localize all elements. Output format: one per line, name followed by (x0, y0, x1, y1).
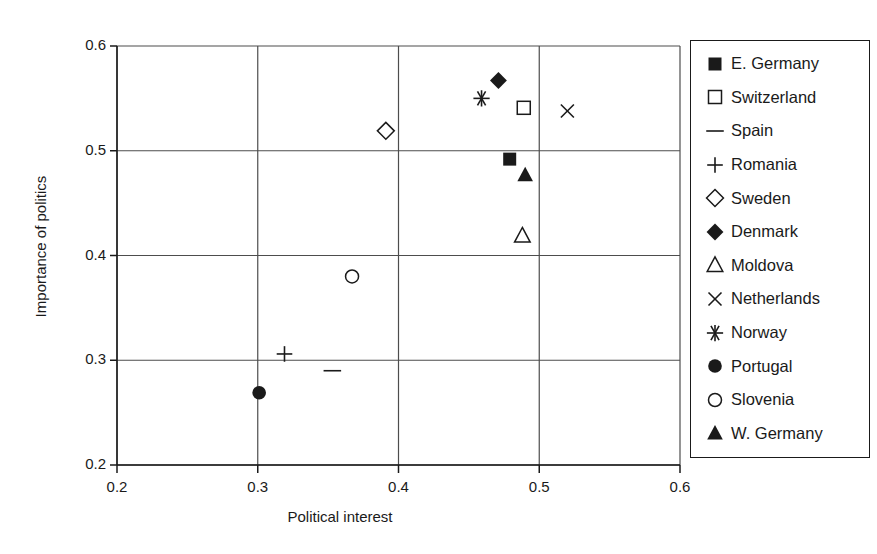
data-points (252, 72, 574, 399)
y-tick-label: 0.6 (58, 36, 106, 53)
legend-item-label: Portugal (731, 357, 792, 376)
filled-triangle-icon (702, 420, 728, 446)
open-square-glyph (709, 91, 722, 104)
cross-icon (702, 286, 728, 312)
y-tick-label: 0.4 (58, 246, 106, 263)
legend-item-label: Slovenia (731, 390, 794, 409)
legend-item-label: Moldova (731, 256, 793, 275)
filled-diamond-icon (702, 219, 728, 245)
data-point-moldova (515, 227, 531, 242)
filled-circle-icon (702, 353, 728, 379)
x-tick-label: 0.2 (87, 478, 147, 495)
x-axis-label: Political interest (0, 508, 680, 525)
dash-icon (702, 118, 728, 144)
data-point-norway (473, 90, 489, 106)
y-tick-label: 0.5 (58, 141, 106, 158)
filled-diamond-glyph (707, 223, 724, 240)
data-point-denmark (490, 72, 507, 89)
data-point-sweden (377, 122, 394, 139)
legend-item-switzerland[interactable]: Switzerland (691, 81, 869, 115)
x-tick-label: 0.4 (369, 478, 429, 495)
y-tick-label: 0.2 (58, 455, 106, 472)
legend-item-label: W. Germany (731, 424, 823, 443)
gridlines (117, 46, 680, 465)
legend-item-e-germany[interactable]: E. Germany (691, 47, 869, 81)
open-diamond-icon (702, 185, 728, 211)
legend-item-w-germany[interactable]: W. Germany (691, 417, 869, 451)
filled-circle-glyph (708, 359, 722, 373)
legend-item-label: Netherlands (731, 289, 820, 308)
legend-item-sweden[interactable]: Sweden (691, 181, 869, 215)
legend-item-label: Switzerland (731, 88, 816, 107)
y-axis-label: Importance of politics (32, 97, 49, 397)
open-square-icon (702, 84, 728, 110)
open-circle-icon (702, 387, 728, 413)
cross-glyph (709, 292, 722, 305)
legend-item-netherlands[interactable]: Netherlands (691, 282, 869, 316)
x-tick-label: 0.3 (228, 478, 288, 495)
data-point-switzerland (517, 101, 530, 114)
legend-item-label: Denmark (731, 222, 798, 241)
axis-ticks (110, 46, 680, 473)
legend-item-denmark[interactable]: Denmark (691, 215, 869, 249)
y-tick-label: 0.3 (58, 350, 106, 367)
legend-item-label: E. Germany (731, 54, 819, 73)
data-point-portugal (252, 386, 266, 400)
legend-box: E. GermanySwitzerlandSpainRomaniaSwedenD… (690, 40, 870, 458)
legend-item-spain[interactable]: Spain (691, 114, 869, 148)
plus-icon (702, 152, 728, 178)
open-diamond-glyph (707, 190, 724, 207)
legend-item-label: Spain (731, 121, 773, 140)
legend-item-romania[interactable]: Romania (691, 148, 869, 182)
open-triangle-icon (702, 252, 728, 278)
legend-item-label: Sweden (731, 189, 791, 208)
plus-glyph (707, 157, 723, 173)
legend-item-portugal[interactable]: Portugal (691, 349, 869, 383)
legend-item-label: Norway (731, 323, 787, 342)
asterisk-glyph (707, 324, 723, 340)
filled-square-icon (702, 51, 728, 77)
open-triangle-glyph (707, 257, 723, 272)
asterisk-icon (702, 320, 728, 346)
open-circle-glyph (709, 393, 722, 406)
legend-item-norway[interactable]: Norway (691, 316, 869, 350)
data-point-netherlands (561, 104, 574, 117)
x-tick-label: 0.5 (509, 478, 569, 495)
data-point-w-germany (517, 167, 533, 182)
data-point-slovenia (346, 270, 359, 283)
legend-item-moldova[interactable]: Moldova (691, 249, 869, 283)
legend-item-label: Romania (731, 155, 797, 174)
data-point-e-germany (503, 153, 516, 166)
x-tick-label: 0.6 (650, 478, 710, 495)
data-point-romania (277, 346, 293, 362)
filled-square-glyph (709, 57, 722, 70)
legend-item-slovenia[interactable]: Slovenia (691, 383, 869, 417)
filled-triangle-glyph (707, 425, 723, 440)
